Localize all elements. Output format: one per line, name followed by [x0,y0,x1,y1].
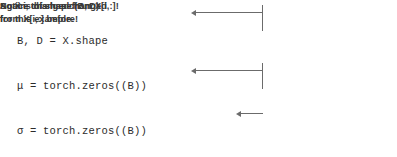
code-block: B, D = X.shape μ = torch.zeros((B)) σ = … [17,4,212,157]
leader-line [195,70,263,71]
leader-line [240,113,263,114]
left-arrow-icon [236,111,241,117]
code-line: B, D = X.shape [17,34,212,49]
annotation-text: Again, changed from X[i,:]! [0,0,119,13]
leader-line [195,12,263,13]
left-arrow-icon [191,10,196,16]
annotated-code-figure: B, D = X.shape μ = torch.zeros((B)) σ = … [0,0,397,157]
code-line: σ = torch.zeros((B)) [17,124,212,139]
left-arrow-icon [191,68,196,74]
bracket-line [262,5,263,31]
code-line: μ = torch.zeros((B)) [17,79,212,94]
annotation-sigma-index-change: Again, changed from X[i,:]! [0,0,119,13]
bracket-line [262,63,263,89]
